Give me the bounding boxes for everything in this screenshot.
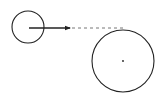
center-dot: [122, 60, 124, 62]
diagram-canvas: [0, 0, 161, 97]
small-circle: [12, 11, 44, 43]
